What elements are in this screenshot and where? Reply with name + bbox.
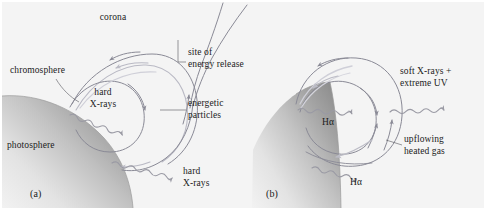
label-site-of-energy-release: site of energy release	[188, 47, 244, 70]
label-chromosphere: chromosphere	[10, 65, 65, 77]
label-h-alpha-upper: Hα	[322, 117, 334, 129]
label-h-alpha-lower: Hα	[350, 177, 362, 189]
panel-label-a: (a)	[30, 188, 41, 200]
label-energetic-particles: energetic particles	[188, 98, 224, 121]
label-corona: corona	[100, 12, 126, 24]
panel-label-b: (b)	[266, 188, 278, 200]
label-upflowing-heated-gas: upflowing heated gas	[404, 134, 445, 157]
figure-canvas	[0, 0, 488, 222]
solar-flare-figure: corona chromosphere photosphere hard X-r…	[0, 0, 488, 222]
label-hard-xrays-upper: hard X-rays	[90, 87, 116, 110]
label-soft-xrays-extreme-uv: soft X-rays + extreme UV	[400, 66, 452, 89]
label-hard-xrays-lower: hard X-rays	[183, 166, 209, 189]
label-photosphere: photosphere	[7, 140, 55, 152]
